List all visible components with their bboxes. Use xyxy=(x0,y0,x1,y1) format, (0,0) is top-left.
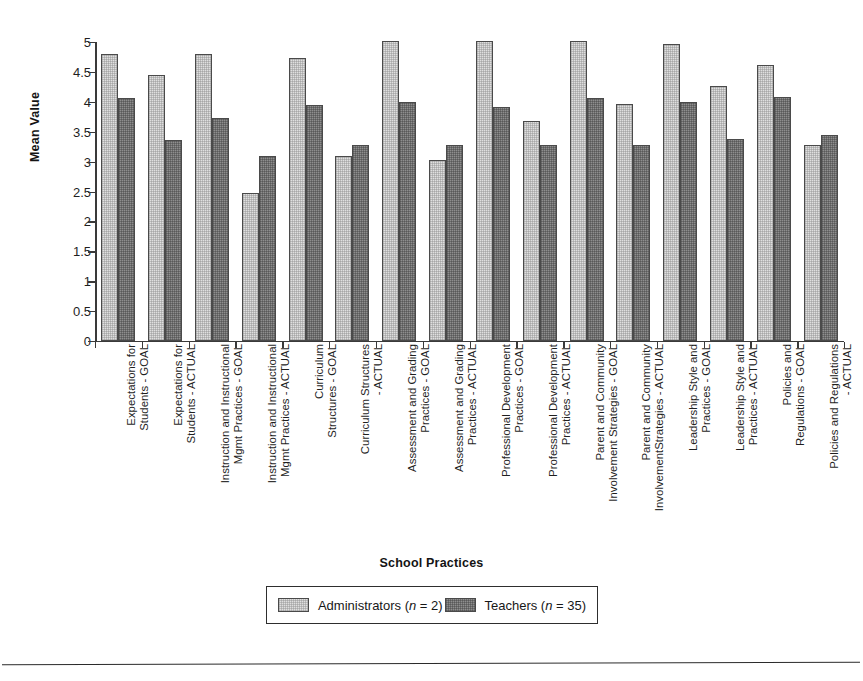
bar-group xyxy=(429,42,463,341)
bar xyxy=(633,145,650,341)
bar-group xyxy=(382,42,416,341)
bar-group xyxy=(804,42,838,341)
bar-group xyxy=(148,42,182,341)
bar xyxy=(212,118,229,341)
y-axis-tick-labels: 00.511.522.533.544.55 xyxy=(55,36,91,348)
bar xyxy=(306,105,323,341)
bar xyxy=(352,145,369,341)
bar-group xyxy=(663,42,697,341)
bar xyxy=(727,139,744,341)
bar-group xyxy=(289,42,323,341)
bar-group xyxy=(523,42,557,341)
bar-group xyxy=(335,42,369,341)
x-axis-tick-label: Leadership Style and Practices - GOAL xyxy=(687,344,713,534)
x-axis-tick-label: Instruction and Instructional Mgmt Pract… xyxy=(219,344,245,534)
y-axis-tick-mark xyxy=(88,251,95,252)
y-axis-tick-mark xyxy=(88,221,95,222)
bar xyxy=(710,86,727,341)
legend-label: Administrators (n = 2) xyxy=(318,598,443,613)
bar-group xyxy=(101,42,135,341)
x-axis-tick-label: Curriculum Structures - GOAL xyxy=(313,344,339,534)
bar xyxy=(663,44,680,341)
x-axis-tick-label: Assessment and Grading Practices - ACTUA… xyxy=(453,344,479,534)
bar xyxy=(148,75,165,341)
page-divider-rule xyxy=(2,662,860,666)
y-axis-tick-mark xyxy=(88,132,95,133)
bar xyxy=(523,121,540,341)
x-axis-tick-labels: Expectations for Students - GOALExpectat… xyxy=(95,344,844,539)
bar-group xyxy=(570,42,604,341)
x-axis-tick-label: Expectations for Students - GOAL xyxy=(125,344,151,534)
y-axis-tick-mark xyxy=(88,192,95,193)
bar-group xyxy=(616,42,650,341)
bar-group xyxy=(195,42,229,341)
y-axis-tick-mark xyxy=(88,162,95,163)
bar-group xyxy=(710,42,744,341)
x-axis-tick-label: Policies and Regulations - GOAL xyxy=(781,344,807,534)
bar xyxy=(289,58,306,341)
bar-series-area xyxy=(95,42,844,341)
bar xyxy=(195,54,212,341)
bar xyxy=(382,41,399,341)
y-axis-tick-mark xyxy=(88,72,95,73)
y-axis-tick-mark xyxy=(88,281,95,282)
x-axis-tick-label: Professional Development Practices - GOA… xyxy=(500,344,526,534)
x-axis-tick-label: Policies and Regulations - ACTUAL xyxy=(828,344,854,534)
legend-swatch xyxy=(278,598,309,612)
bar xyxy=(118,98,135,341)
x-axis-tick-label: Parent and Community Involvement Strateg… xyxy=(594,344,620,534)
x-axis-tick-label: Instruction and Instructional Mgmt Pract… xyxy=(266,344,292,534)
y-axis-tick-mark xyxy=(88,102,95,103)
bar-group xyxy=(757,42,791,341)
bar xyxy=(587,98,604,341)
legend-label: Teachers (n = 35) xyxy=(485,598,587,613)
bar xyxy=(804,145,821,341)
y-axis-title: Mean Value xyxy=(28,42,42,162)
x-axis-tick-label: Professional Development Practices - ACT… xyxy=(547,344,573,534)
legend-swatch xyxy=(445,598,476,612)
x-axis-tick-label: Expectations for Students - ACTUAL xyxy=(172,344,198,534)
bar xyxy=(259,156,276,341)
bar xyxy=(399,102,416,341)
bar xyxy=(493,107,510,341)
bar xyxy=(335,156,352,341)
bar xyxy=(101,54,118,341)
legend-entry: Administrators (n = 2) xyxy=(278,598,443,613)
bar xyxy=(821,135,838,341)
bar-chart: Mean Value 00.511.522.533.544.55 Expecta… xyxy=(0,0,863,681)
bar xyxy=(242,193,259,341)
x-axis-tick-label: Assessment and Grading Practices - GOAL xyxy=(406,344,432,534)
chart-legend: Administrators (n = 2)Teachers (n = 35) xyxy=(266,586,598,624)
x-axis-tick-label: Leadership Style and Practices - ACTUAL xyxy=(734,344,760,534)
bar xyxy=(165,140,182,341)
bar xyxy=(476,41,493,341)
bar-group xyxy=(476,42,510,341)
y-axis-tick-mark xyxy=(88,311,95,312)
y-axis-tick-mark xyxy=(88,42,95,43)
bar xyxy=(616,104,633,341)
bar xyxy=(757,65,774,341)
bar xyxy=(774,97,791,341)
bar xyxy=(680,102,697,341)
chart-page: Mean Value 00.511.522.533.544.55 Expecta… xyxy=(0,0,863,681)
bar xyxy=(429,160,446,341)
legend-entry: Teachers (n = 35) xyxy=(445,598,587,613)
x-axis-tick-label: Parent and Community InvolvementStrategi… xyxy=(640,344,666,534)
bar xyxy=(446,145,463,341)
bar xyxy=(570,41,587,341)
bar xyxy=(540,145,557,341)
x-axis-tick-label: Curriculum Structures - ACTUAL xyxy=(359,344,385,534)
x-axis-title: School Practices xyxy=(0,556,863,570)
bar-group xyxy=(242,42,276,341)
y-axis-tick-mark xyxy=(88,341,95,342)
